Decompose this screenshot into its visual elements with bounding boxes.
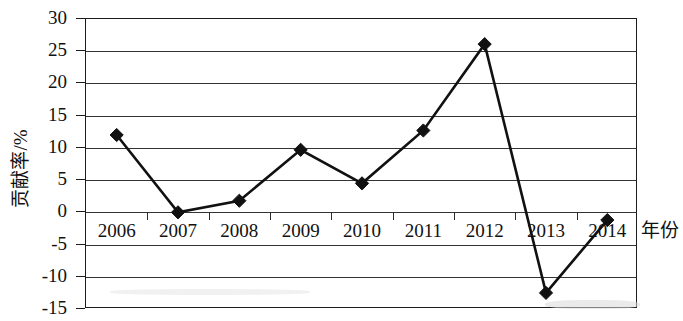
y-axis-tick-mark: [76, 82, 85, 83]
y-axis-tick-mark: [76, 276, 85, 277]
y-axis-tick-label: 30: [3, 8, 67, 27]
y-axis-tick-mark: [76, 179, 85, 180]
y-axis-tick-label: 15: [3, 105, 67, 124]
scan-artifact: [545, 300, 640, 309]
y-axis-tick-label: -15: [3, 298, 67, 317]
y-axis-tick-label: 20: [3, 72, 67, 91]
x-axis-title: 年份: [641, 215, 679, 242]
y-axis-tick-mark: [76, 115, 85, 116]
series-polyline: [117, 44, 608, 293]
y-axis-tick-mark: [76, 18, 85, 19]
y-axis-tick-label: 25: [3, 40, 67, 59]
plot-area: 200620072008200920102011201220132014: [85, 18, 637, 308]
scan-artifact: [110, 289, 310, 295]
y-axis-tick-mark: [76, 211, 85, 212]
y-axis-tick-label: -5: [3, 234, 67, 253]
y-axis-tick-mark: [76, 50, 85, 51]
y-axis-tick-label: -10: [3, 266, 67, 285]
contribution-rate-line-chart: 贡献率/% 年份 302520151050-5-10-15 2006200720…: [0, 0, 683, 321]
y-axis-tick-mark: [76, 147, 85, 148]
data-series-line: [86, 19, 638, 309]
y-axis-tick-label: 5: [3, 169, 67, 188]
y-axis-tick-mark: [76, 308, 85, 309]
y-axis-tick-mark: [76, 244, 85, 245]
y-axis-tick-label: 10: [3, 137, 67, 156]
y-axis-tick-label: 0: [3, 201, 67, 220]
